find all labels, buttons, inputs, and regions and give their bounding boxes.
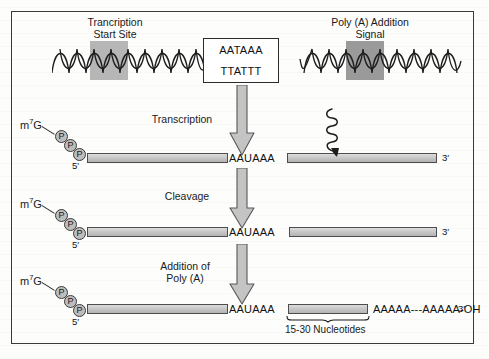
aauaaa-signal-row3: AAUAAA — [229, 303, 275, 315]
polyadenylation-step-label-line1: Addition of — [145, 260, 225, 272]
poly-a-signal-label-line2: Signal — [300, 28, 440, 40]
cap-m-row2: m — [20, 198, 29, 210]
five-prime-row3: 5′ — [72, 316, 79, 327]
rna-body-row3 — [87, 304, 228, 314]
m7g-cap-label-row1: m7G — [20, 116, 42, 131]
cap-g-row2: G — [33, 198, 42, 210]
cap-g-row1: G — [33, 119, 42, 131]
dna-top-strand-sequence: AATAAA — [204, 44, 278, 56]
dna-bottom-strand-sequence: TTATTT — [204, 65, 278, 77]
m7g-cap-label-row3: m7G — [20, 272, 42, 287]
cleavage-arrow — [229, 168, 255, 230]
polyadenylation-arrow — [229, 244, 255, 306]
cap-m-row1: m — [20, 119, 29, 131]
rna-downstream-row1 — [287, 153, 437, 163]
rna-cleaved-fragment-row2 — [289, 227, 437, 237]
cap-g-row3: G — [33, 275, 42, 287]
poly-a-addition-signal-label: Poly (A) Addition Signal — [300, 16, 440, 40]
five-prime-row1: 5′ — [72, 160, 79, 171]
aauaaa-signal-row2: AAUAAA — [229, 226, 275, 238]
rna-spacer-segment-row3 — [288, 304, 368, 314]
nucleotide-count-label: 15-30 Nucleotides — [285, 324, 366, 336]
transcription-start-site-label-line1: Trancription — [55, 16, 175, 28]
transcription-arrow — [229, 85, 255, 157]
polyadenylation-step-label-line2: Poly (A) — [145, 272, 225, 284]
rna-body-row2 — [87, 227, 228, 237]
aauaaa-signal-row1: AAUAAA — [229, 152, 275, 164]
poly-a-signal-label-line1: Poly (A) Addition — [300, 16, 440, 28]
dna-sequence-box: AATAAA TTATTT — [203, 38, 279, 83]
transcription-start-site-label-line2: Start Site — [55, 28, 175, 40]
cleavage-step-label-line1: Cleavage — [150, 190, 224, 202]
figure-canvas: Trancription Start Site Poly (A) Additio… — [0, 0, 489, 359]
transcription-start-site-label: Trancription Start Site — [55, 16, 175, 40]
cleavage-step-label: Cleavage — [150, 190, 224, 202]
three-prime-row3: 3′ — [458, 303, 465, 314]
three-prime-row2: 3′ — [442, 226, 449, 237]
transcription-step-label: Transcription — [140, 113, 224, 125]
polyadenylation-step-label: Addition of Poly (A) — [145, 260, 225, 284]
three-prime-row1: 3′ — [442, 152, 449, 163]
five-prime-row2: 5′ — [72, 239, 79, 250]
cap-m-row3: m — [20, 275, 29, 287]
cleavage-site-squiggle-arrow — [322, 107, 348, 159]
rna-body-row1 — [87, 153, 228, 163]
transcription-step-label-line1: Transcription — [140, 113, 224, 125]
m7g-cap-label-row2: m7G — [20, 195, 42, 210]
nucleotide-span-brace — [286, 315, 370, 323]
